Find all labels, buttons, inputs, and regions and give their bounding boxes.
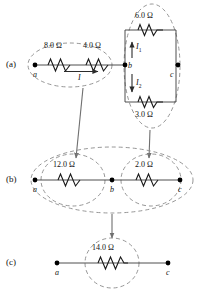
node-a-row-c — [55, 261, 60, 266]
node-label-c-row-c: c — [166, 268, 170, 277]
reduction-arrow-series-to-12 — [76, 88, 83, 158]
node-c-row-b — [178, 178, 183, 183]
current-label-I2: I2 — [136, 78, 141, 89]
node-label-a-row-a: a — [33, 70, 37, 79]
resistor-4-label: 4.0 Ω — [83, 41, 101, 50]
row-label-c: (c) — [6, 257, 16, 267]
resistor-2-label: 2.0 Ω — [135, 160, 153, 169]
node-b-row-b — [110, 178, 115, 183]
node-a-row-a — [33, 63, 38, 68]
node-a-row-b — [33, 178, 38, 183]
node-label-a-row-b: a — [33, 185, 37, 194]
node-c-row-c — [166, 261, 171, 266]
node-b-row-a — [123, 63, 128, 68]
resistor-6-label: 6.0 Ω — [135, 11, 153, 20]
resistor-12-label: 12.0 Ω — [53, 160, 75, 169]
node-c-row-a — [176, 63, 181, 68]
node-label-c-row-b: c — [178, 185, 182, 194]
current-label-I1: I1 — [136, 42, 141, 53]
row-label-b: (b) — [6, 174, 17, 184]
resistor-14-symbol — [98, 257, 128, 269]
resistor-8-label: 8.0 Ω — [44, 41, 62, 50]
node-label-a-row-c: a — [55, 268, 59, 277]
node-label-c-row-a: c — [170, 70, 174, 79]
row-label-a: (a) — [6, 59, 16, 69]
node-label-b-row-a: b — [128, 61, 132, 70]
current-label-I: I — [78, 73, 81, 82]
node-label-b-row-b: b — [110, 185, 114, 194]
resistor-3-label: 3.0 Ω — [135, 110, 153, 119]
resistor-14-label: 14.0 Ω — [92, 243, 114, 252]
